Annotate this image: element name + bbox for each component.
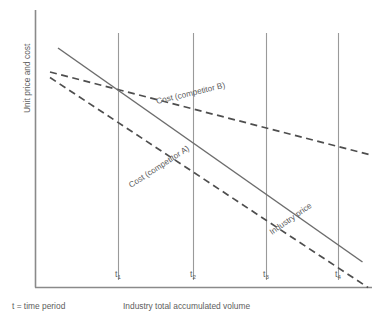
chart-footnote: t = time period: [12, 301, 66, 311]
annotation-industry-price: Industry price: [268, 201, 314, 237]
series-line-industry-price: [58, 48, 363, 262]
experience-curve-chart: Cost (competitor B) Cost (competitor A) …: [0, 0, 375, 330]
series-line-cost-competitor-a: [50, 78, 368, 288]
x-axis-title: Industry total accumulated volume: [123, 301, 250, 311]
annotation-cost-competitor-a: Cost (competitor A): [127, 144, 191, 190]
y-axis-title: Unit price and cost: [22, 43, 32, 113]
chart-canvas: Cost (competitor B) Cost (competitor A) …: [0, 0, 375, 330]
annotation-cost-competitor-b: Cost (competitor B): [155, 81, 226, 106]
